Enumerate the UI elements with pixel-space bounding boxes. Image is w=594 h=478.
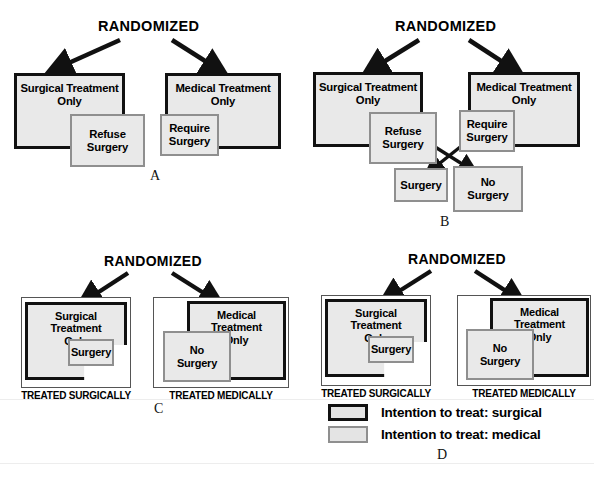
- legend-label: Intention to treat: medical: [381, 427, 541, 442]
- box-label: NoSurgery: [465, 176, 510, 201]
- box-no-surgery: NoSurgery: [466, 329, 534, 380]
- panel-c-letter: C: [154, 401, 163, 417]
- box-label: Medical TreatmentOnly: [173, 82, 272, 107]
- box-require-surgery: RequireSurgery: [459, 110, 515, 152]
- box-label: RequireSurgery: [167, 122, 212, 147]
- panel-b-letter: B: [440, 214, 449, 230]
- legend-swatch-surgical-icon: [328, 404, 368, 421]
- box-no-surgery: NoSurgery: [453, 166, 523, 212]
- legend-row-surgical: Intention to treat: surgical: [328, 404, 542, 421]
- label-treated-surgically: TREATED SURGICALLY: [309, 388, 443, 399]
- box-label: NoSurgery: [478, 342, 522, 367]
- box-label: Surgical TreatmentOnly: [317, 81, 419, 106]
- box-no-surgery: NoSurgery: [163, 331, 231, 382]
- box-label: RequireSurgery: [464, 118, 509, 143]
- box-surgery: Surgery: [68, 339, 114, 366]
- panel-d-letter: D: [437, 447, 447, 463]
- box-refuse-surgery: RefuseSurgery: [369, 112, 437, 164]
- box-refuse-surgery: RefuseSurgery: [70, 114, 145, 167]
- box-label: Medical TreatmentOnly: [474, 81, 573, 106]
- scan-artifact-line: [0, 399, 594, 400]
- legend-row-medical: Intention to treat: medical: [328, 426, 541, 443]
- box-label: Surgery: [69, 346, 113, 358]
- box-label: RefuseSurgery: [85, 128, 130, 153]
- box-surgery: Surgery: [368, 336, 414, 363]
- box-label: Surgery: [398, 179, 443, 192]
- box-label: Surgical TreatmentOnly: [18, 82, 120, 107]
- box-require-surgery: RequireSurgery: [160, 114, 219, 156]
- trial-design-figure: RANDOMIZED Surgical TreatmentOnly Refuse…: [0, 0, 594, 478]
- panel-b: RANDOMIZED Surgical TreatmentOnly Refuse…: [297, 0, 594, 239]
- legend-swatch-medical-icon: [328, 426, 368, 443]
- box-label: NoSurgery: [175, 344, 219, 369]
- panel-b-randomized-label: RANDOMIZED: [395, 18, 496, 34]
- box-label: Surgery: [369, 343, 413, 355]
- box-surgery: Surgery: [394, 168, 448, 202]
- panel-a-letter: A: [150, 168, 160, 184]
- panel-c-randomized-label: RANDOMIZED: [104, 253, 202, 269]
- panel-d: RANDOMIZED Surgical TreatmentOnly Surger…: [297, 239, 594, 478]
- panel-a: RANDOMIZED Surgical TreatmentOnly Refuse…: [0, 0, 297, 239]
- legend-label: Intention to treat: surgical: [381, 405, 542, 420]
- panel-c: RANDOMIZED Surgical TreatmentOnly Surger…: [0, 239, 297, 478]
- scan-artifact-text: [300, 466, 594, 478]
- panel-a-randomized-label: RANDOMIZED: [98, 18, 199, 34]
- box-label: RefuseSurgery: [380, 125, 425, 150]
- panel-d-randomized-label: RANDOMIZED: [408, 251, 506, 267]
- label-treated-medically: TREATED MEDICALLY: [457, 388, 591, 399]
- scan-artifact-line: [0, 463, 594, 464]
